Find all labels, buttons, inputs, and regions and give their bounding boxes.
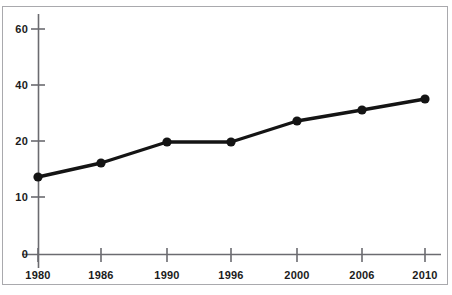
data-point-1996 bbox=[226, 137, 235, 146]
data-point-2000 bbox=[292, 116, 301, 125]
x-tick-label-2006: 2006 bbox=[339, 269, 385, 281]
chart-figure: 60 40 20 10 0 1980 1986 1990 1996 2000 2… bbox=[0, 0, 452, 295]
data-point-1990 bbox=[162, 137, 171, 146]
bottom-caption-fragment bbox=[4, 287, 304, 294]
x-tick-label-1996: 1996 bbox=[208, 269, 254, 281]
x-tick-label-2010: 2010 bbox=[402, 269, 448, 281]
x-tick-label-1986: 1986 bbox=[78, 269, 124, 281]
data-point-1980 bbox=[33, 172, 42, 181]
y-tick-label-40: 40 bbox=[0, 79, 28, 91]
y-tick-label-60: 60 bbox=[0, 23, 28, 35]
y-tick-label-10: 10 bbox=[0, 191, 28, 203]
data-point-2006 bbox=[357, 105, 366, 114]
x-tick-label-1990: 1990 bbox=[144, 269, 190, 281]
data-point-2010 bbox=[420, 94, 429, 103]
y-tick-label-20: 20 bbox=[0, 135, 28, 147]
x-tick-label-2000: 2000 bbox=[274, 269, 320, 281]
x-tick-label-1980: 1980 bbox=[15, 269, 61, 281]
y-tick-label-0: 0 bbox=[0, 248, 28, 260]
data-point-1986 bbox=[96, 158, 105, 167]
line-chart-plot bbox=[0, 0, 452, 295]
